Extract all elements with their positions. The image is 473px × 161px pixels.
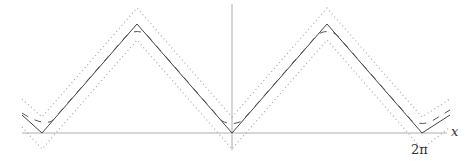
upper-band xyxy=(22,8,450,117)
approximation-curve xyxy=(22,32,450,124)
x-axis-label: x xyxy=(451,124,458,139)
tick-2pi-label: 2π xyxy=(411,142,428,157)
chart-plot xyxy=(0,0,473,161)
triangle-wave xyxy=(22,24,450,133)
